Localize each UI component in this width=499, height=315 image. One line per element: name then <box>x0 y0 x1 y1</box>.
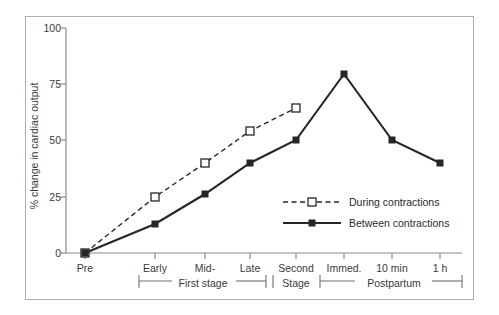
series-between-point-immed <box>341 71 348 78</box>
series-during-line <box>85 108 296 253</box>
chart-svg <box>0 0 499 315</box>
legend-swatch-during <box>283 198 341 206</box>
series-during-contractions <box>81 104 300 257</box>
series-between-contractions <box>82 71 444 257</box>
series-between-point-mid <box>202 191 209 198</box>
bracket-postpartum <box>320 275 462 288</box>
series-between-point-pre <box>82 250 89 257</box>
series-during-point-early <box>151 193 159 201</box>
series-between-point-1h <box>437 160 444 167</box>
series-between-line <box>85 74 440 253</box>
series-between-point-late <box>247 160 254 167</box>
figure-container: % change in cardiac output 100 75 50 25 … <box>0 0 499 315</box>
series-during-point-second <box>292 104 300 112</box>
series-during-point-mid <box>201 159 209 167</box>
legend-swatch-between <box>283 220 341 227</box>
bracket-second-stage <box>273 275 320 288</box>
series-between-point-early <box>152 221 159 228</box>
bracket-first-stage <box>139 275 266 288</box>
series-between-point-10min <box>389 137 396 144</box>
series-between-point-second <box>293 137 300 144</box>
series-during-point-late <box>246 127 254 135</box>
